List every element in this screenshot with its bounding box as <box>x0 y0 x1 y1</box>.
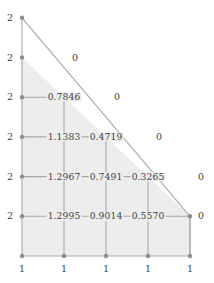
mesh-node <box>20 214 24 218</box>
mesh-node <box>146 254 150 258</box>
mesh-node <box>104 214 108 218</box>
mesh-node <box>104 135 108 139</box>
mesh-node <box>62 174 66 178</box>
mesh-node <box>20 254 24 258</box>
mesh-node <box>20 95 24 99</box>
mesh-node <box>62 95 66 99</box>
mesh-node <box>188 254 192 258</box>
mesh-node <box>20 55 24 59</box>
mesh-node <box>20 135 24 139</box>
mesh-node <box>62 254 66 258</box>
mesh-node <box>104 174 108 178</box>
mesh-canvas <box>0 0 214 283</box>
mesh-node <box>20 16 24 20</box>
mesh-node <box>20 174 24 178</box>
mesh-node <box>62 214 66 218</box>
mesh-node <box>146 174 150 178</box>
mesh-node <box>62 135 66 139</box>
mesh-node <box>146 214 150 218</box>
mesh-figure: 22020.7846021.13830.4719021.29670.74910.… <box>0 0 214 283</box>
mesh-node <box>104 254 108 258</box>
mesh-node <box>188 214 192 218</box>
